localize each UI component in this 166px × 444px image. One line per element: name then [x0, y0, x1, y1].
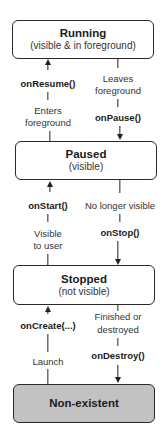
- transition-event: Finished or: [95, 311, 142, 322]
- transition-event: foreground: [25, 117, 71, 128]
- state-title: Non-existent: [14, 397, 154, 410]
- state-nonexistent: Non-existent: [13, 384, 155, 423]
- transition-method: onStart(): [28, 200, 68, 211]
- state-title: Paused: [16, 148, 156, 161]
- connector-line: [47, 214, 48, 222]
- transition-method: onResume(): [21, 78, 76, 89]
- transition-event: Visible: [34, 228, 62, 239]
- connector-line: [117, 338, 118, 346]
- transition-event: Launch: [32, 356, 63, 367]
- transition-method: onDestroy(): [91, 350, 144, 361]
- connector-line: [49, 186, 50, 192]
- connector-line: [119, 126, 120, 134]
- transition-event: No longer visible: [85, 200, 155, 211]
- transition-event: Leaves: [103, 73, 134, 84]
- transition-method: onPause(): [95, 112, 141, 123]
- state-subtitle: (not visible): [14, 286, 154, 298]
- state-running: Running (visible & in foreground): [12, 20, 154, 59]
- transition-event: to user: [33, 240, 62, 251]
- state-subtitle: (visible): [16, 161, 156, 173]
- connector-line: [119, 214, 120, 222]
- transition-event: destroyed: [97, 324, 139, 335]
- arrow-down-icon: [115, 377, 121, 383]
- transition-event: Enters: [34, 105, 61, 116]
- connector-line: [119, 180, 120, 193]
- state-stopped: Stopped (not visible): [13, 265, 155, 305]
- state-subtitle: (visible & in foreground): [13, 40, 153, 52]
- connector-line: [117, 365, 118, 377]
- connector-line: [117, 99, 118, 107]
- connector-line: [117, 59, 118, 68]
- connector-line: [47, 311, 48, 314]
- transition-method: onCreate(...): [20, 320, 75, 331]
- state-paused: Paused (visible): [15, 141, 157, 180]
- state-title: Stopped: [14, 273, 154, 286]
- connector-line: [117, 241, 118, 259]
- connector-line: [47, 369, 48, 384]
- transition-method: onStop(): [100, 227, 139, 238]
- connector-line: [47, 92, 48, 100]
- connector-line: [47, 334, 48, 352]
- arrow-down-icon: [117, 134, 123, 140]
- transition-event: foreground: [95, 85, 141, 96]
- connector-line: [49, 131, 50, 141]
- connector-line: [47, 64, 48, 70]
- state-title: Running: [13, 27, 153, 40]
- connector-line: [47, 254, 48, 265]
